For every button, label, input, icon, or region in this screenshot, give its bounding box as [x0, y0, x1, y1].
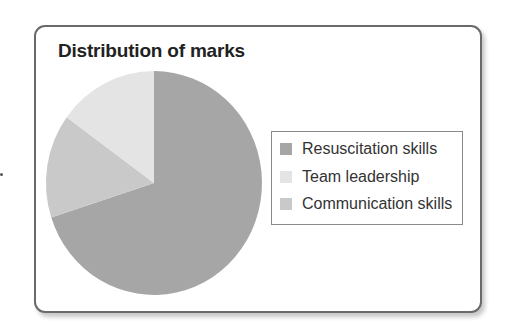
- legend: Resuscitation skills Team leadership Com…: [271, 131, 463, 225]
- legend-swatch: [280, 143, 292, 155]
- legend-item-team-leadership: Team leadership: [280, 167, 419, 187]
- legend-swatch: [280, 198, 292, 210]
- legend-item-communication: Communication skills: [280, 194, 452, 214]
- legend-swatch: [280, 171, 292, 183]
- legend-label: Communication skills: [302, 195, 452, 213]
- legend-item-resuscitation: Resuscitation skills: [280, 139, 437, 159]
- legend-label: Resuscitation skills: [302, 140, 437, 158]
- legend-label: Team leadership: [302, 168, 419, 186]
